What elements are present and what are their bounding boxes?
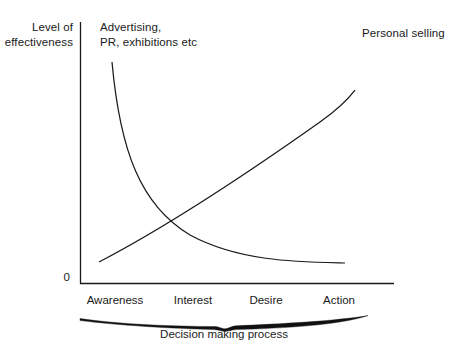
x-axis-category-action: Action <box>300 294 378 306</box>
y-axis-title: Level of effectiveness <box>0 20 73 49</box>
series-label-advertising: Advertising, PR, exhibitions etc <box>100 20 197 49</box>
x-axis-category-desire: Desire <box>227 294 305 306</box>
chart-canvas: Level of effectiveness Advertising, PR, … <box>0 0 473 358</box>
x-axis-title: Decision making process <box>80 328 368 340</box>
y-axis-tick-label-zero: 0 <box>52 270 70 285</box>
x-axis-category-interest: Interest <box>154 294 232 306</box>
x-axis-category-awareness: Awareness <box>76 294 154 306</box>
series-label-personal-selling: Personal selling <box>362 26 445 41</box>
series-line-advertising <box>112 62 345 263</box>
